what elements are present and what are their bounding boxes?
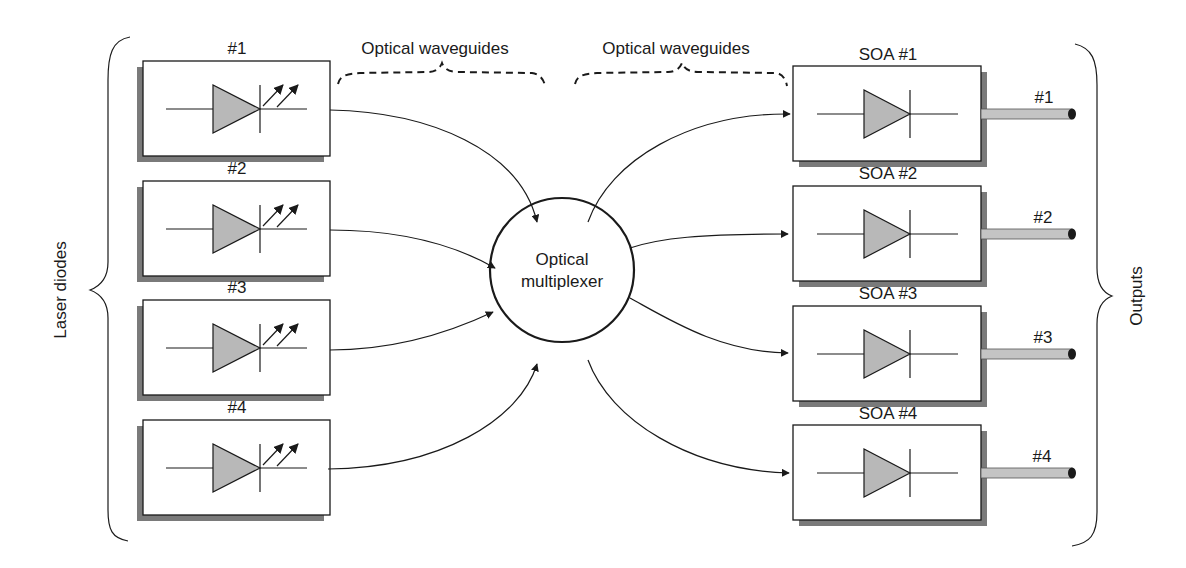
output-curve-4 [588,360,789,473]
laser-diodes-label: Laser diodes [52,241,69,338]
soa-label-4: SOA #4 [859,405,918,422]
multiplexer-label-line1: Optical [521,249,603,271]
soa-label-1: SOA #1 [859,46,918,63]
output-label-1: #1 [1035,89,1054,106]
laser-box-4 [137,420,330,521]
input-curve-4 [328,364,537,469]
multiplexer-label: Optical multiplexer [521,249,603,293]
soa-box-2 [793,186,1076,287]
soa-label-3: SOA #3 [859,285,918,302]
input-curve-2 [330,230,495,268]
laser-box-3 [137,300,330,401]
laser-label-4: #4 [228,399,247,416]
multiplexer-label-line2: multiplexer [521,271,603,293]
output-label-2: #2 [1034,209,1053,226]
input-curve-1 [330,110,537,222]
laser-label-2: #2 [228,160,247,177]
output-curve-3 [630,298,788,353]
laser-label-1: #1 [228,40,247,57]
laser-label-3: #3 [228,279,247,296]
output-label-4: #4 [1033,448,1052,465]
laser-box-1 [137,61,330,162]
right-brace [1072,44,1112,546]
left-brace [90,37,130,541]
waveguide-brace-right [575,63,787,86]
waveguide-label-left: Optical waveguides [361,40,508,57]
outputs-label: Outputs [1128,266,1145,326]
soa-box-4 [793,425,1076,526]
waveguide-brace-left [338,63,545,86]
output-curve-2 [630,234,788,248]
soa-label-2: SOA #2 [859,165,918,182]
output-label-3: #3 [1034,329,1053,346]
output-curve-1 [588,114,790,222]
soa-box-1 [793,66,1076,167]
laser-box-2 [137,181,330,282]
soa-box-3 [793,306,1076,407]
waveguide-label-right: Optical waveguides [602,40,749,57]
input-curve-3 [330,312,493,350]
